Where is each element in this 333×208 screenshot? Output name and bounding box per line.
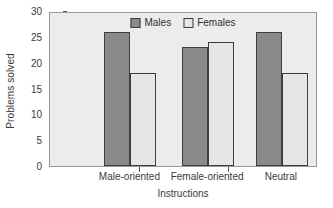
y-axis-tick-label: 15	[18, 84, 42, 96]
y-axis-ticks: 051015202530	[18, 6, 42, 176]
x-axis-label: Instructions	[49, 188, 317, 200]
legend-item-males: Males	[130, 17, 171, 28]
y-axis-label: Problems solved	[3, 6, 19, 176]
y-axis-tick-label: 10	[18, 109, 42, 121]
bar-males-neutral	[256, 32, 282, 166]
bar-females-male-oriented	[130, 73, 156, 166]
y-axis-tick-label: 20	[18, 58, 42, 70]
y-axis-tick-label: 30	[18, 6, 42, 18]
legend-item-females: Females	[183, 17, 235, 28]
bar-females-female-oriented	[208, 42, 234, 166]
legend: Males Females	[130, 17, 235, 28]
x-axis-categories: Male-orientedFemale-orientedNeutral	[49, 170, 317, 184]
legend-label-males: Males	[144, 17, 171, 28]
legend-swatch-males	[130, 18, 140, 28]
bar-females-neutral	[282, 73, 308, 166]
bar-males-female-oriented	[182, 47, 208, 166]
bar-chart-figure: Problems solved 051015202530 Males Femal…	[0, 0, 333, 208]
bar-group	[103, 13, 157, 166]
x-axis-category-label: Male-oriented	[99, 170, 160, 184]
y-axis-tick-label: 25	[18, 32, 42, 44]
bar-group	[255, 13, 309, 166]
plot-area: Males Females	[49, 12, 317, 167]
x-axis-category-label: Neutral	[265, 170, 297, 184]
legend-label-females: Females	[197, 17, 235, 28]
x-axis-category-label: Female-oriented	[171, 170, 244, 184]
bar-males-male-oriented	[104, 32, 130, 166]
bar-group	[181, 13, 235, 166]
y-axis-tick-label: 5	[18, 135, 42, 147]
y-axis-tick-label: 0	[18, 161, 42, 173]
plot-inner: Males Females	[50, 13, 316, 166]
legend-swatch-females	[183, 18, 193, 28]
